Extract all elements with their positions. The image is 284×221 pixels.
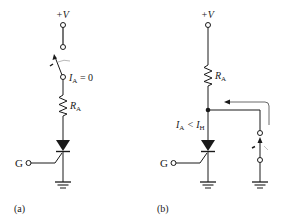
arrow-head-icon — [224, 100, 230, 105]
current-label-a: IA = 0 — [68, 72, 93, 85]
gate-label-a: G — [15, 157, 23, 169]
scr-icon — [56, 140, 70, 151]
ground-icon — [55, 182, 71, 188]
supply-label-a: +V — [56, 9, 71, 20]
switch-arrow-icon — [258, 137, 263, 143]
caption-b: (b) — [157, 203, 169, 215]
current-label-b: IA < IH — [175, 119, 205, 132]
resistor-ra — [59, 95, 67, 116]
resistor-label-a: RA — [69, 100, 81, 113]
ground-icon — [252, 182, 268, 188]
bypass-wire — [208, 110, 260, 131]
supply-terminal — [61, 23, 66, 28]
switch-arm — [55, 57, 62, 75]
switch-motion-arc — [58, 60, 70, 62]
supply-label-b: +V — [201, 9, 216, 20]
resistor-label-b: RA — [214, 70, 226, 83]
caption-a: (a) — [14, 203, 25, 215]
gate-lead — [176, 153, 207, 163]
gate-lead — [31, 153, 62, 163]
panel-b — [171, 23, 269, 189]
scr-icon — [201, 140, 215, 151]
ground-icon — [200, 182, 216, 188]
gate-terminal — [26, 161, 31, 166]
switch-contact-top — [61, 45, 66, 50]
switch-contact-top — [258, 131, 263, 136]
resistor-ra — [204, 65, 212, 86]
circuit-diagram: +V IA = 0 RA G (a) — [0, 0, 284, 221]
supply-terminal — [206, 23, 211, 28]
gate-terminal — [171, 161, 176, 166]
current-flow-arrow — [228, 102, 269, 125]
panel-a — [26, 23, 71, 189]
switch-contact-bottom — [258, 158, 263, 163]
gate-label-b: G — [160, 157, 168, 169]
switch-contact-bottom — [61, 75, 66, 80]
